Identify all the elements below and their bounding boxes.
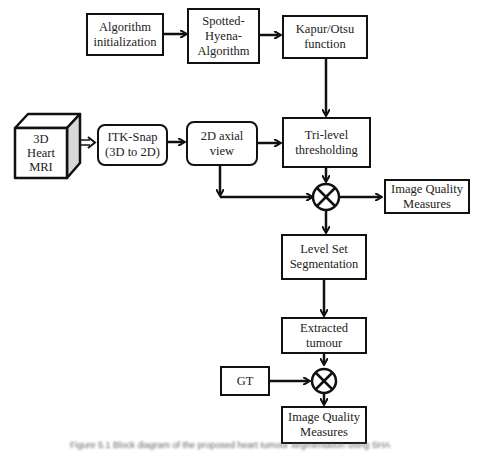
node-image-quality-measures-2: Image QualityMeasures [281, 406, 367, 444]
arrow-mri-to-itk [88, 137, 95, 148]
node-level-set-segmentation: Level SetSegmentation [281, 234, 367, 280]
node-kapur-otsu-function: Kapur/Otsufunction [282, 15, 368, 59]
multiplier-icon-1 [313, 184, 339, 210]
multiplier-icon-2 [312, 369, 336, 393]
node-image-quality-measures-1: Image QualityMeasures [384, 179, 470, 214]
figure-caption: Figure 5.1 Block diagram of the proposed… [70, 440, 430, 450]
node-gt: GT [220, 366, 270, 396]
node-2d-axial-view: 2D axialview [186, 121, 258, 166]
node-itk-snap: ITK-Snap(3D to 2D) [97, 124, 168, 166]
node-spotted-hyena-algorithm: Spotted-Hyena-Algorithm [187, 8, 260, 64]
node-algorithm-initialization: Algorithminitialization [86, 13, 164, 56]
node-extracted-tumour: Extractedtumour [281, 317, 367, 354]
node-3d-heart-mri: 3DHeartMRI [15, 128, 67, 178]
node-tri-level-thresholding: Tri-levelthresholding [282, 117, 371, 168]
